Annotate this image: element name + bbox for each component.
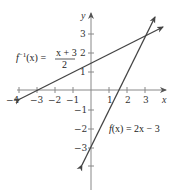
y-tick-label: −1 [74,105,87,115]
x-tick-label: −1 [66,95,79,105]
f-label: f(x) = 2x − 3 [109,123,160,135]
graph-canvas: −4 −3 −2 −1 1 2 3 x 3 2 1 −1 −2 −3 y f−1… [0,0,176,196]
x-tick-label: −3 [30,95,44,105]
y-tick-label: 3 [80,29,86,39]
finv-label: f−1(x) = x + 3 2 [16,47,77,70]
x-tick-label: −4 [6,95,20,105]
x-tick-label: −2 [48,95,61,105]
finv-denominator: 2 [62,59,67,70]
svg-text:f(x) = 2x − 3: f(x) = 2x − 3 [109,123,160,135]
y-tick-label: −2 [74,124,87,134]
x-axis-label: x [161,94,167,105]
f-line [82,17,155,165]
y-tick-label: −3 [74,143,88,153]
x-tick-label: 2 [125,95,131,105]
x-tick-label: 3 [143,95,149,105]
y-tick-label: 2 [80,48,86,58]
svg-text:f−1(x) =: f−1(x) = [16,51,46,64]
y-axis-label: y [80,10,86,21]
finv-numerator: x + 3 [56,47,77,58]
